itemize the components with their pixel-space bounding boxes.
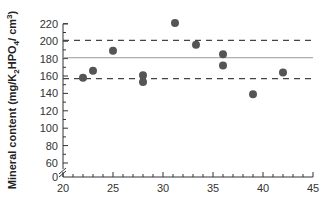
y-axis-label: Mineral content (mg/K2HPO4/ cm3) (5, 10, 21, 189)
y-tick-label: 100 (40, 122, 58, 134)
data-point (171, 19, 179, 27)
data-point (279, 69, 287, 77)
y-tick-label: 80 (46, 140, 58, 152)
axes: 20253035404506080100120140160180200220 (40, 18, 319, 194)
y-tick-label: 140 (40, 87, 58, 99)
data-point (219, 62, 227, 70)
y-tick-label: 200 (40, 35, 58, 47)
y-tick-label: 0 (52, 171, 58, 183)
y-tick-label: 220 (40, 18, 58, 30)
data-point (249, 90, 257, 98)
data-point (79, 74, 87, 82)
data-point (89, 67, 97, 75)
y-tick-label: 160 (40, 70, 58, 82)
x-tick-label: 45 (307, 182, 319, 194)
svg-text:Mineral content (mg/K2HPO4/ cm: Mineral content (mg/K2HPO4/ cm3) (5, 10, 21, 189)
data-point (139, 78, 147, 86)
data-point (192, 41, 200, 49)
data-point (139, 71, 147, 79)
reference-lines (63, 40, 313, 78)
x-tick-label: 40 (257, 182, 269, 194)
x-tick-label: 25 (107, 182, 119, 194)
data-points (79, 19, 287, 98)
x-tick-label: 20 (57, 182, 69, 194)
y-tick-label: 180 (40, 53, 58, 65)
data-point (219, 50, 227, 58)
y-tick-label: 120 (40, 105, 58, 117)
x-tick-label: 30 (157, 182, 169, 194)
x-tick-label: 35 (207, 182, 219, 194)
data-point (109, 47, 117, 55)
y-tick-label: 60 (46, 157, 58, 169)
scatter-chart: Mineral content (mg/K2HPO4/ cm3) 2025303… (0, 0, 336, 203)
